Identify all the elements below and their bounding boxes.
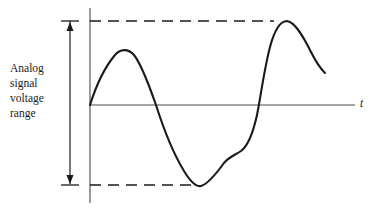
analog-waveform-curve <box>90 21 325 186</box>
range-arrow-head-up-icon <box>67 22 74 31</box>
range-label-line-4: range <box>10 106 72 121</box>
range-label-line-1: Analog <box>10 61 72 76</box>
range-label-line-3: voltage <box>10 91 72 106</box>
range-arrow-head-down-icon <box>67 175 74 184</box>
range-label: Analog signal voltage range <box>10 61 72 121</box>
analog-signal-figure: Analog signal voltage range t <box>0 0 377 215</box>
range-label-line-2: signal <box>10 76 72 91</box>
time-axis-label: t <box>360 97 363 109</box>
